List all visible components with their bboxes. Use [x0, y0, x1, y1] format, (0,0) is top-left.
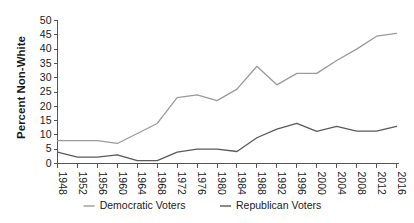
y-tick-label: 25	[40, 85, 52, 97]
x-tick-label: 1976	[196, 172, 208, 196]
x-tick-label: 1952	[77, 172, 89, 196]
x-tick-label: 1972	[176, 172, 188, 196]
y-tick-label: 20	[40, 100, 52, 112]
x-tick-label: 1988	[256, 172, 268, 196]
legend-label-democratic-voters: Democratic Voters	[100, 199, 186, 211]
y-axis-tick-labels: 05101520253035404550	[40, 14, 52, 169]
y-tick-label: 35	[40, 57, 52, 69]
x-tick-label: 2004	[336, 172, 348, 196]
y-tick-label: 50	[40, 14, 52, 26]
chart-legend: Democratic VotersRepublican Voters	[84, 199, 322, 211]
y-tick-label: 10	[40, 128, 52, 140]
legend-label-republican-voters: Republican Voters	[236, 199, 321, 211]
y-tick-label: 30	[40, 71, 52, 83]
x-tick-label: 1996	[296, 172, 308, 196]
x-tick-label: 1968	[156, 172, 168, 196]
x-tick-label: 1964	[136, 172, 148, 196]
x-tick-label: 1984	[236, 172, 248, 196]
x-tick-label: 2008	[356, 172, 368, 196]
x-tick-label: 2012	[376, 172, 388, 196]
y-axis-tick-marks	[54, 21, 58, 164]
x-tick-label: 1980	[216, 172, 228, 196]
x-tick-label: 2000	[316, 172, 328, 196]
x-axis-tick-labels: 1948195219561960196419681972197619801984…	[57, 172, 408, 196]
y-tick-label: 40	[40, 42, 52, 54]
x-tick-label: 2016	[396, 172, 408, 196]
x-axis-tick-marks	[58, 164, 397, 168]
y-tick-label: 0	[46, 157, 52, 169]
chart-figure: Percent Non-White 05101520253035404550 1…	[0, 0, 414, 223]
y-tick-label: 15	[40, 114, 52, 126]
x-tick-label: 1948	[57, 172, 69, 196]
x-tick-label: 1960	[117, 172, 129, 196]
x-tick-label: 1956	[97, 172, 109, 196]
series-line-democratic-voters	[58, 33, 397, 143]
line-chart-plot: 05101520253035404550 1948195219561960196…	[0, 0, 414, 223]
y-tick-label: 5	[46, 142, 52, 154]
x-tick-label: 1992	[276, 172, 288, 196]
data-series-group	[58, 33, 397, 160]
y-tick-label: 45	[40, 28, 52, 40]
